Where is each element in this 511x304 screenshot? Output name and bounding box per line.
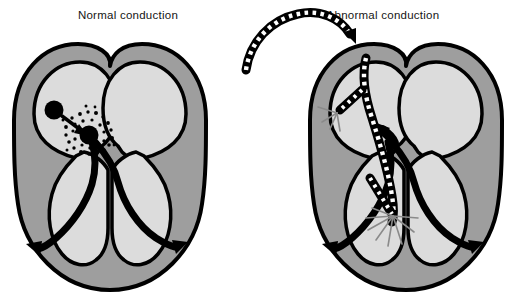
conduction-figure: Normal conduction Abnormal conduction: [0, 0, 511, 304]
purkinje-left-arrowhead-abnormal: [322, 241, 338, 256]
panel-abnormal: [246, 13, 502, 290]
panel-normal: [14, 44, 206, 290]
figure-canvas: [0, 0, 511, 304]
purkinje-left-arrowhead: [26, 241, 42, 256]
